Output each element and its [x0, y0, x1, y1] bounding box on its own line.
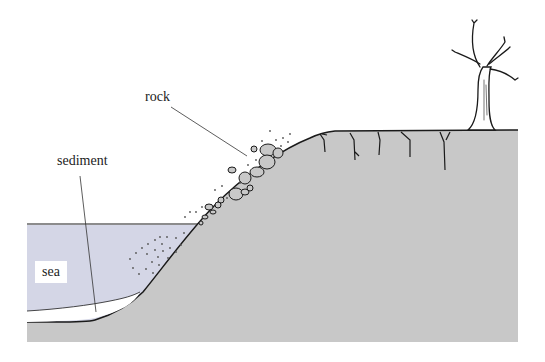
rock-leader-line [171, 107, 247, 156]
sea-label: sea [35, 261, 67, 283]
sediment-label: sediment [57, 153, 108, 169]
dead-tree [452, 20, 518, 130]
coastal-erosion-diagram: rock sediment sea [0, 0, 545, 362]
rock-label: rock [145, 89, 170, 105]
diagram-canvas [0, 0, 545, 362]
